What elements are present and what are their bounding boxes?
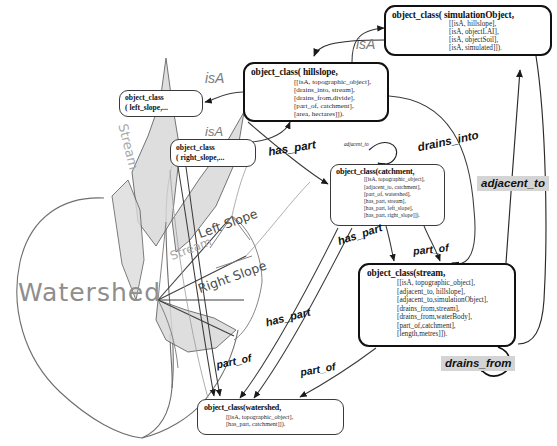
class-attr-line: [[isA, topographic_object], [397,279,510,288]
class-box-body: [[isA, topographic_object], [adjacent_to… [336,176,441,219]
class-box-simulation-object[interactable]: object_class( simulationObject, [[isA, h… [384,5,552,56]
class-box-body: [[isA, topographic_object], [drains_into… [251,78,383,119]
class-attr-line: [[isA, topographic_object], [294,78,383,86]
class-attr-line: [adjacent_to,simulationObject], [397,296,510,305]
class-box-head-cont: ( right_slope,... [176,153,252,163]
class-attr-line: [adjacent_to, hillslope], [397,288,510,297]
class-attr-line: [isA, simulated]]). [449,44,545,52]
edge-label-drains-from: drains_from [441,356,515,371]
class-box-head: object_class( simulationObject, [392,10,545,20]
class-box-left-slope[interactable]: object_class ( left_slope,... [119,90,203,117]
class-box-body: [[isA, topographic_object], [adjacent_to… [367,279,510,339]
class-box-body: [[isA, topographic_object], [has_part, c… [204,413,339,428]
edge-label-isa: isA [205,124,223,139]
class-attr-line: [[isA, hillslope], [449,20,545,28]
class-attr-line: [length,metres]]). [397,330,510,339]
class-box-catchment[interactable]: object_class(catchment, [[isA, topograph… [330,164,445,226]
class-box-head: object_class(watershed, [204,403,339,413]
class-attr-line: [[isA, topographic_object], [364,176,441,183]
class-box-head: object_class [125,93,199,103]
class-box-head: object_class [176,143,252,153]
edge-label-adjacent-to: adjacent_to [477,176,549,191]
edge-label-isa: isA [356,36,375,52]
edge-label-isa: isA [205,70,224,86]
diagram-canvas: Watershed Stream Stream Left Slope Right… [0,0,557,446]
class-attr-line: [drains_into, stream], [294,86,383,94]
class-attr-line: [drains_from,waterBody], [397,313,510,322]
class-box-head: object_class(catchment, [336,167,441,176]
class-box-head: object_class( hillslope, [251,67,383,78]
class-attr-line: [drains_from,stream], [397,305,510,314]
class-box-right-slope[interactable]: object_class ( right_slope,... [170,139,256,167]
class-box-hillslope[interactable]: object_class( hillslope, [[isA, topograp… [243,62,389,122]
class-attr-line: [has_part, left_slope], [364,205,441,212]
class-attr-line: [has_part, catchment]]). [226,420,339,428]
class-attr-line: [adjacent_to, catchment], [364,184,441,191]
class-attr-line: [has_part, stream], [364,198,441,205]
class-box-head-cont: ( left_slope,... [125,103,199,113]
class-box-head: object_class(stream, [367,268,510,279]
class-attr-line: [part_of, catchment], [294,102,383,110]
class-attr-line: [drains_from,divide], [294,94,383,102]
class-box-stream[interactable]: object_class(stream, [[isA, topographic_… [358,263,516,347]
class-attr-line: [part_of,catchment], [397,322,510,331]
class-box-body: [[isA, hillslope], [isA, objectLAI], [is… [392,20,545,52]
class-attr-line: [isA, objectSoil], [449,36,545,44]
edge-label-adjacent-to-self: adjacent_to [344,141,369,147]
class-attr-line: [area, hectares]]). [294,110,383,118]
class-box-watershed[interactable]: object_class(watershed, [[isA, topograph… [197,399,344,435]
class-attr-line: [isA, objectLAI], [449,28,545,36]
picture-label-watershed: Watershed [18,278,161,307]
class-attr-line: [[isA, topographic_object], [226,413,339,421]
class-attr-line: [has_part, right_slope]]). [364,212,441,219]
class-attr-line: [part_of, watershed], [364,191,441,198]
